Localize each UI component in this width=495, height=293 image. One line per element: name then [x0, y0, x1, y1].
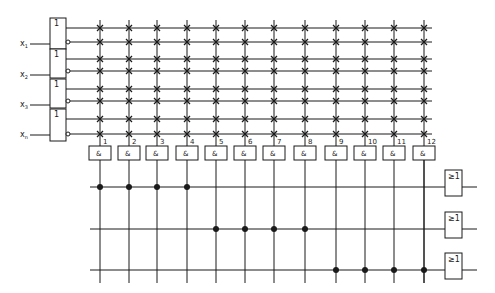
and-gate-2: &2 [118, 138, 140, 283]
fixed-connection-dot-icon [271, 226, 277, 232]
or-array [90, 160, 445, 283]
buffer-gate-symbol: 1 [54, 80, 59, 89]
input-buffer-2: x21 [20, 49, 432, 80]
and-gate-symbol: & [125, 150, 131, 158]
or-gate-symbol: ≥1 [448, 214, 460, 223]
and-gate-3: &3 [146, 138, 168, 283]
product-term-number: 9 [339, 138, 343, 146]
buffer-gate-symbol: 1 [54, 110, 59, 119]
and-gates: &1&2&3&4&5&6&7&8&9&10&11&12 [89, 138, 436, 283]
product-term-number: 2 [132, 138, 136, 146]
fixed-connection-dot-icon [184, 184, 190, 190]
product-term-number: 3 [160, 138, 164, 146]
inversion-bubble [66, 40, 70, 44]
product-term-number: 5 [219, 138, 223, 146]
and-gate-symbol: & [270, 150, 276, 158]
input-buffer-4: xn1 [20, 109, 432, 141]
and-gate-symbol: & [332, 150, 338, 158]
and-gate-symbol: & [390, 150, 396, 158]
and-gate-1: &1 [89, 138, 111, 283]
input-subscript: n [25, 134, 28, 140]
product-term-number: 1 [103, 138, 107, 146]
product-term-number: 6 [248, 138, 253, 146]
or-gate-symbol: ≥1 [448, 172, 460, 181]
pla-schematic: x11x21x31xn1 &1&2&3&4&5&6&7&8&9&10&11&12… [0, 0, 495, 293]
fixed-connection-dot-icon [362, 267, 368, 273]
or-gate-symbol: ≥1 [448, 255, 460, 264]
and-gate-symbol: & [420, 150, 426, 158]
and-gate-9: &9 [325, 138, 347, 283]
product-term-number: 8 [308, 138, 312, 146]
inversion-bubble [66, 132, 70, 136]
product-term-number: 11 [397, 138, 406, 146]
buffer-gate-symbol: 1 [54, 50, 59, 59]
input-label: x2 [20, 70, 28, 80]
pla-diagram: x11x21x31xn1 &1&2&3&4&5&6&7&8&9&10&11&12… [0, 0, 495, 293]
fixed-connection-dot-icon [97, 184, 103, 190]
inversion-bubble [66, 99, 70, 103]
fixed-connection-dot-icon [333, 267, 339, 273]
and-gate-symbol: & [212, 150, 218, 158]
input-label: xn [20, 130, 28, 140]
product-term-number: 10 [368, 138, 377, 146]
or-gates: ≥1≥1≥1 [445, 170, 477, 279]
input-buffer-3: x31 [20, 79, 432, 110]
fixed-connection-dot-icon [126, 184, 132, 190]
and-gate-8: &8 [294, 138, 316, 283]
and-gate-symbol: & [96, 150, 102, 158]
and-gate-symbol: & [241, 150, 247, 158]
fixed-connection-dot-icon [302, 226, 308, 232]
or-gate-1: ≥1 [445, 170, 477, 196]
and-gate-11: &11 [383, 138, 406, 283]
and-gate-symbol: & [301, 150, 307, 158]
input-buffers: x11x21x31xn1 [20, 18, 432, 141]
input-subscript: 2 [25, 74, 28, 80]
and-gate-7: &7 [263, 138, 285, 283]
product-term-number: 12 [427, 138, 436, 146]
and-gate-5: &5 [205, 138, 227, 283]
input-label: x1 [20, 39, 28, 49]
and-gate-10: &10 [354, 138, 377, 283]
product-term-number: 7 [277, 138, 281, 146]
buffer-gate-symbol: 1 [54, 19, 59, 28]
inversion-bubble [66, 69, 70, 73]
fixed-connection-dot-icon [391, 267, 397, 273]
fixed-connection-dot-icon [154, 184, 160, 190]
and-gate-symbol: & [183, 150, 189, 158]
or-gate-3: ≥1 [445, 253, 477, 279]
input-label: x3 [20, 100, 28, 110]
input-subscript: 1 [25, 43, 28, 49]
and-array [97, 20, 427, 146]
and-gate-4: &4 [176, 138, 198, 283]
and-gate-symbol: & [153, 150, 159, 158]
input-subscript: 3 [25, 104, 28, 110]
or-gate-2: ≥1 [445, 212, 477, 238]
product-term-number: 4 [190, 138, 195, 146]
fixed-connection-dot-icon [213, 226, 219, 232]
and-gate-symbol: & [361, 150, 367, 158]
and-gate-6: &6 [234, 138, 256, 283]
fixed-connection-dot-icon [242, 226, 248, 232]
input-buffer-1: x11 [20, 18, 432, 49]
